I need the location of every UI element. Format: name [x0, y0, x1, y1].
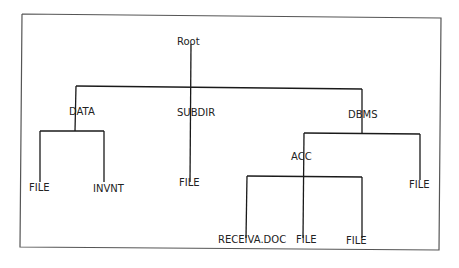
acc-trunk [303, 133, 304, 238]
node-dbms: DBMS [348, 109, 378, 121]
level1-connector [76, 86, 362, 89]
node-subdir-file: FILE [179, 177, 200, 189]
node-acc-receiva: RECEIVA.DOC [218, 234, 286, 246]
node-dbms-file: FILE [409, 179, 430, 191]
node-acc: ACC [291, 151, 312, 163]
node-data: DATA [69, 106, 95, 118]
node-subdir: SUBDIR [177, 107, 215, 119]
node-acc-file1: FILE [296, 234, 317, 246]
acc-receiva-branch [246, 176, 247, 238]
node-root: Root [177, 36, 200, 48]
node-data-invnt: INVNT [93, 183, 124, 195]
acc-connector [247, 176, 362, 177]
tree-lines [0, 0, 459, 268]
node-data-file: FILE [29, 182, 50, 194]
diagram-frame [20, 14, 441, 250]
dbms-connector [304, 133, 420, 134]
node-acc-file2: FILE [346, 235, 367, 247]
